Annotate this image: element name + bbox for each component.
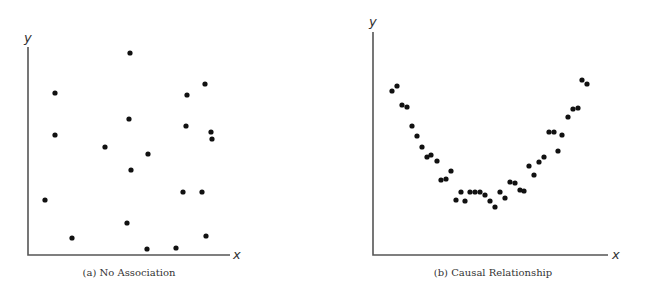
data-point xyxy=(42,197,47,202)
panel-a-y-axis-label: y xyxy=(23,30,32,45)
data-point xyxy=(559,132,564,137)
panel-b-axes xyxy=(373,32,608,255)
data-point xyxy=(184,92,189,97)
data-point xyxy=(144,246,149,251)
data-point xyxy=(502,195,507,200)
data-point xyxy=(428,152,433,157)
data-point xyxy=(202,81,207,86)
data-point xyxy=(579,77,584,82)
data-point xyxy=(492,204,497,209)
panel-a-caption: (a) No Association xyxy=(83,267,176,278)
data-point xyxy=(399,102,404,107)
data-point xyxy=(127,50,132,55)
panel-b-causal-relationship: y x (b) Causal Relationship xyxy=(368,14,620,278)
figure: y x (a) No Association y x (b) Causal Re… xyxy=(0,0,649,286)
data-point xyxy=(448,168,453,173)
data-point xyxy=(389,88,394,93)
data-point xyxy=(404,104,409,109)
data-point xyxy=(173,245,178,250)
data-point xyxy=(584,81,589,86)
data-point xyxy=(414,133,419,138)
data-point xyxy=(536,159,541,164)
data-point xyxy=(69,235,74,240)
data-point xyxy=(52,90,57,95)
data-point xyxy=(507,179,512,184)
data-point xyxy=(565,114,570,119)
data-point xyxy=(477,189,482,194)
data-point xyxy=(453,197,458,202)
data-point xyxy=(487,198,492,203)
data-point xyxy=(512,180,517,185)
data-point xyxy=(183,123,188,128)
data-point xyxy=(482,192,487,197)
data-point xyxy=(145,151,150,156)
data-point xyxy=(208,129,213,134)
data-point xyxy=(467,189,472,194)
data-point xyxy=(570,106,575,111)
data-point xyxy=(462,198,467,203)
data-point xyxy=(203,233,208,238)
data-point xyxy=(521,188,526,193)
panel-b-x-axis-label: x xyxy=(611,247,620,262)
data-point xyxy=(497,189,502,194)
data-point xyxy=(555,148,560,153)
data-point xyxy=(526,163,531,168)
data-point xyxy=(541,154,546,159)
data-point xyxy=(394,83,399,88)
data-point xyxy=(409,123,414,128)
panel-b-scatter-points xyxy=(389,77,589,209)
data-point xyxy=(458,189,463,194)
data-point xyxy=(546,129,551,134)
data-point xyxy=(102,144,107,149)
data-point xyxy=(443,176,448,181)
data-point xyxy=(199,189,204,194)
data-point xyxy=(209,136,214,141)
data-point xyxy=(438,177,443,182)
panel-b-caption: (b) Causal Relationship xyxy=(434,267,552,278)
data-point xyxy=(52,132,57,137)
panel-b-y-axis-label: y xyxy=(368,14,377,29)
panel-a-x-axis-label: x xyxy=(232,247,241,262)
data-point xyxy=(575,105,580,110)
panel-a-no-association: y x (a) No Association xyxy=(23,30,241,278)
data-point xyxy=(128,167,133,172)
data-point xyxy=(124,220,129,225)
data-point xyxy=(472,189,477,194)
data-point xyxy=(419,144,424,149)
data-point xyxy=(531,172,536,177)
data-point xyxy=(126,116,131,121)
data-point xyxy=(180,189,185,194)
panel-a-scatter-points xyxy=(42,50,214,251)
data-point xyxy=(551,129,556,134)
data-point xyxy=(434,158,439,163)
